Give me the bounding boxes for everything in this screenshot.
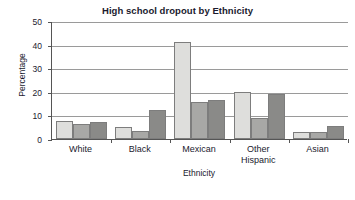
plot-area: 01020304050 — [51, 22, 347, 140]
bar — [191, 102, 208, 139]
bar-group — [111, 21, 170, 139]
bar — [208, 100, 225, 139]
group-separator — [170, 139, 171, 143]
x-tick-label: Mexican — [169, 144, 228, 155]
y-tick-label: 20 — [33, 88, 42, 98]
x-tick-label: Asian — [288, 144, 347, 155]
bar — [56, 121, 73, 139]
bar-group — [170, 21, 229, 139]
chart-title: High school dropout by Ethnicity — [0, 5, 355, 16]
x-tick-label: White — [51, 144, 110, 155]
y-tick-mark: 0 — [48, 140, 52, 141]
y-axis-label: Percentage — [17, 40, 27, 110]
bar — [310, 132, 327, 139]
y-tick-label: 30 — [33, 64, 42, 74]
group-separator — [230, 139, 231, 143]
x-tick-label: Black — [110, 144, 169, 155]
x-axis-label: Ethnicity — [51, 168, 347, 178]
bar — [174, 42, 191, 139]
chart-figure: High school dropout by Ethnicity Percent… — [0, 0, 355, 200]
bar — [293, 132, 310, 139]
x-tick-label: OtherHispanic — [229, 144, 288, 166]
bar — [327, 126, 344, 139]
bar-group — [52, 21, 111, 139]
bar — [149, 110, 166, 139]
bar — [132, 131, 149, 139]
bar — [115, 127, 132, 139]
bar — [90, 122, 107, 139]
bar — [73, 124, 90, 139]
group-separator — [289, 139, 290, 143]
y-tick-label: 0 — [37, 135, 42, 145]
bars-layer — [52, 21, 348, 139]
bar — [234, 92, 251, 139]
bar — [251, 118, 268, 139]
group-separator — [348, 139, 349, 143]
bar-group — [289, 21, 348, 139]
bar-group — [230, 21, 289, 139]
y-tick-label: 40 — [33, 41, 42, 51]
bar — [268, 94, 285, 139]
y-tick-label: 50 — [33, 17, 42, 27]
group-separator — [111, 139, 112, 143]
y-tick-label: 10 — [33, 111, 42, 121]
